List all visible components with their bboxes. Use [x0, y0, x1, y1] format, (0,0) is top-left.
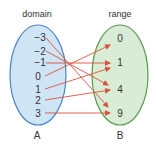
domain-title: domain [22, 9, 52, 19]
domain-value: 2 [35, 95, 41, 106]
domain-value: 0 [35, 71, 41, 82]
mapping-diagram: domain range −3 −2 −1 0 1 2 3 0 1 4 9 A … [0, 0, 156, 147]
domain-value: −1 [34, 57, 46, 68]
domain-value: −2 [34, 46, 46, 57]
domain-value: 3 [35, 108, 41, 119]
range-value: 4 [117, 84, 123, 95]
range-value: 9 [117, 108, 123, 119]
domain-set-name: A [34, 130, 41, 141]
range-value: 1 [117, 57, 123, 68]
range-value: 0 [117, 33, 123, 44]
domain-value: 1 [35, 84, 41, 95]
range-title: range [108, 9, 131, 19]
domain-value: −3 [34, 32, 46, 43]
range-set-name: B [117, 130, 124, 141]
